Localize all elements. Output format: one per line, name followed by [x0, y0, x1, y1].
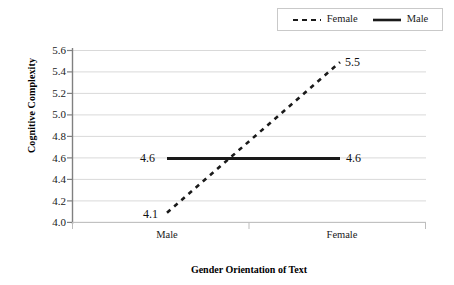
- plot-area: [0, 0, 454, 285]
- line-chart: Female Male Cognitive Complexity 5.6 5.4…: [0, 0, 454, 285]
- x-axis-title: Gender Orientation of Text: [72, 264, 426, 275]
- data-label-female-female-text: 5.5: [345, 56, 360, 68]
- x-tick-female: Female: [297, 230, 387, 241]
- data-label-female-male-text: 4.1: [143, 208, 158, 220]
- x-axis-ticks: [73, 222, 426, 229]
- series-line-female: [167, 62, 340, 213]
- data-label-male-male-text: 4.6: [140, 152, 155, 164]
- grid-lines: [72, 51, 426, 223]
- data-label-male-female-text: 4.6: [346, 152, 361, 164]
- x-tick-male: Male: [122, 230, 212, 241]
- y-axis-ticks: [67, 51, 72, 223]
